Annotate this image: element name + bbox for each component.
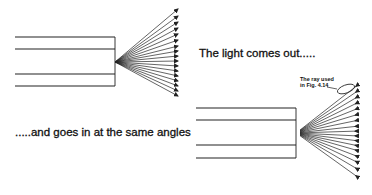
ray-arrow xyxy=(300,134,359,151)
ray-arrow xyxy=(300,96,359,131)
ray-arrow xyxy=(115,51,178,62)
ray-arrow xyxy=(115,62,178,81)
ray-arrowhead xyxy=(355,114,359,115)
ray-arrowhead xyxy=(355,156,359,157)
ray-arrow xyxy=(115,16,178,62)
fiber-out-group xyxy=(15,9,178,96)
ray-arrow xyxy=(300,120,359,132)
ray-arrow xyxy=(115,62,178,96)
ray-arrow xyxy=(115,22,178,62)
ray-arrowhead xyxy=(355,150,359,151)
caption-light-comes-out: The light comes out..... xyxy=(199,47,315,59)
fiber-diagram xyxy=(0,0,372,195)
ray-arrowhead xyxy=(355,145,359,146)
ray-arrow xyxy=(300,108,359,132)
ray-arrow xyxy=(115,34,178,62)
ray-arrowhead xyxy=(356,168,359,170)
annotation-label: The ray used in Fig. 4.14 xyxy=(300,76,334,88)
ray-arrow xyxy=(300,135,359,170)
ray-arrow xyxy=(300,134,359,157)
ray-arrow xyxy=(300,90,359,130)
ray-arrowhead xyxy=(355,102,359,104)
ray-arrowhead xyxy=(356,84,359,86)
annotation-line-2: in Fig. 4.14 xyxy=(300,82,334,88)
ray-arrow xyxy=(300,136,359,178)
ray-arrowhead xyxy=(356,96,359,98)
caption-goes-in-same-angles: .....and goes in at the same angles xyxy=(15,126,191,138)
ray-arrow xyxy=(300,135,359,163)
ray-arrowhead xyxy=(355,161,359,163)
ray-arrowhead xyxy=(356,90,359,92)
ray-arrowhead xyxy=(355,140,359,141)
ray-arrowhead xyxy=(355,108,359,109)
fiber-in-group xyxy=(196,84,359,178)
ray-arrowhead xyxy=(355,120,359,121)
ray-arrowhead xyxy=(356,176,359,178)
